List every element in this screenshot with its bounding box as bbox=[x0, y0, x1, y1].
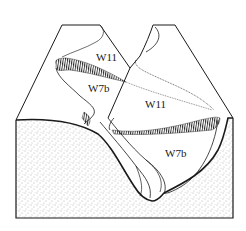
right-hatch-zone bbox=[112, 117, 220, 134]
block-diagram: W11 W7b W11 W7b bbox=[0, 0, 246, 231]
label-lower-right: W7b bbox=[165, 147, 187, 159]
right-block-left-edge bbox=[130, 25, 153, 68]
label-lower-left: W7b bbox=[88, 82, 110, 94]
label-upper-right: W11 bbox=[145, 98, 166, 110]
left-contact-line bbox=[126, 82, 212, 110]
left-small-hatch bbox=[82, 112, 90, 126]
right-block-outline bbox=[108, 25, 233, 118]
left-w7b-boundary bbox=[56, 68, 94, 124]
slide-lobe-right bbox=[146, 160, 161, 192]
label-upper-left: W11 bbox=[96, 51, 117, 63]
